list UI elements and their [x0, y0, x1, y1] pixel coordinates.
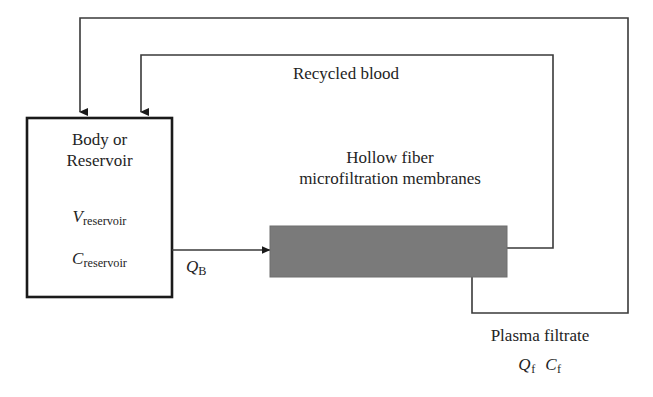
filtrate-conc-subscript: f	[557, 362, 562, 376]
reservoir-concentration-base: C	[72, 249, 83, 268]
reservoir-volume-base: V	[73, 207, 83, 226]
filtrate-flow-subscript: f	[531, 362, 536, 376]
blood-flow-base: Q	[186, 257, 198, 276]
recycled-blood-label: Recycled blood	[186, 64, 506, 85]
blood-flow-label: QB	[186, 257, 206, 278]
filtrate-flow-base: Q	[518, 355, 531, 374]
reservoir-title-line1: Body or	[72, 130, 127, 149]
membrane-label-line2: microfiltration membranes	[299, 169, 481, 188]
membrane-module-rect	[270, 226, 507, 277]
blood-flow-subscript: B	[198, 264, 206, 278]
figure-canvas: Body or Reservoir Vreservoir Creservoir …	[0, 0, 653, 397]
plasma-filtrate-label: Plasma filtrate	[440, 326, 640, 347]
filtrate-variables-label: Qf Cf	[440, 355, 640, 376]
reservoir-concentration-symbol: Creservoir	[27, 249, 172, 270]
membrane-label: Hollow fiber microfiltration membranes	[268, 148, 512, 189]
reservoir-title-line2: Reservoir	[66, 151, 132, 170]
reservoir-volume-subscript: reservoir	[83, 214, 126, 228]
filtrate-conc-base: C	[545, 355, 557, 374]
reservoir-concentration-subscript: reservoir	[83, 256, 126, 270]
reservoir-volume-symbol: Vreservoir	[27, 207, 172, 228]
reservoir-title: Body or Reservoir	[27, 130, 172, 171]
membrane-label-line1: Hollow fiber	[346, 148, 433, 167]
